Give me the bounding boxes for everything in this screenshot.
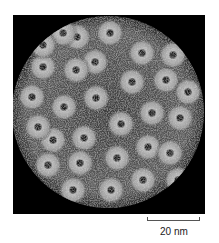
scale-bar-label: 20 nm	[160, 226, 188, 237]
virus-capsid-image	[13, 15, 205, 214]
scale-bar	[147, 217, 200, 221]
micrograph-frame	[13, 15, 205, 214]
